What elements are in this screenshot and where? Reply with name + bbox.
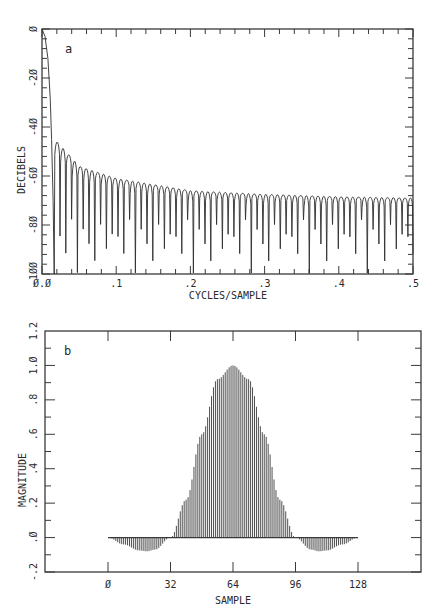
panel-a-y-tick-label: -2Ø — [28, 69, 39, 87]
panel-b-y-tick-label: .8 — [28, 394, 39, 406]
panel-a-y-tick-label: -6Ø — [28, 167, 39, 185]
panel-b-label: b — [64, 344, 71, 358]
panel-b-y-tick-label: 1.2 — [28, 322, 39, 340]
panel-a-x-tick-label: .5 — [407, 278, 419, 289]
panel-b-x-tick-label: 32 — [164, 579, 176, 590]
panel-a-x-tick-label: .1 — [110, 278, 122, 289]
panel-b-y-tick-label: 1.Ø — [28, 356, 39, 374]
panel-b-y-axis-title: MAGNITUDE — [17, 453, 28, 507]
panel-a-frame — [42, 29, 413, 274]
panel-a-y-tick-labels: Ø-2Ø-4Ø-6Ø-8Ø-1ØØ — [28, 26, 39, 286]
panel-b-chart: 1.21.Ø.8.6.4.2.Ø-.2 Ø326496128 b SAMPLE … — [17, 322, 421, 606]
panel-b-x-tick-label: 96 — [289, 579, 301, 590]
cropped-caption — [0, 609, 444, 616]
panel-a-y-axis-title: DECIBELS — [16, 146, 27, 194]
figure: Ø-2Ø-4Ø-6Ø-8Ø-1ØØ Ø.Ø.1.2.3.4.5 a CYCLES… — [0, 0, 444, 616]
panel-b-y-tick-label: .6 — [28, 428, 39, 440]
panel-a-x-tick-label: .4 — [333, 278, 345, 289]
panel-a-y-tick-label: Ø — [28, 26, 39, 32]
panel-b-y-tick-labels: 1.21.Ø.8.6.4.2.Ø-.2 — [28, 322, 39, 581]
panel-a-y-tick-label: -8Ø — [28, 216, 39, 234]
panel-b-x-tick-labels: Ø326496128 — [105, 579, 367, 590]
panel-b-y-tick-label: .2 — [28, 497, 39, 509]
panel-a-x-tick-label: .3 — [259, 278, 271, 289]
panel-a-label: a — [65, 42, 72, 56]
panel-a-x-axis-title: CYCLES/SAMPLE — [189, 290, 267, 301]
panel-a-ticks — [42, 29, 413, 274]
panel-b-y-tick-label: .4 — [28, 463, 39, 475]
panel-a-x-tick-label: Ø.Ø — [33, 278, 51, 289]
panel-a-x-tick-label: .2 — [184, 278, 196, 289]
panel-b-y-tick-label: .Ø — [28, 532, 39, 544]
panel-b-x-axis-title: SAMPLE — [215, 595, 251, 606]
panel-b-x-tick-label: 128 — [349, 579, 367, 590]
panel-b-x-tick-label: 64 — [227, 579, 239, 590]
panel-b-x-tick-label: Ø — [105, 579, 111, 590]
panel-b-y-tick-label: -.2 — [28, 563, 39, 581]
panel-b-stems — [108, 365, 358, 551]
panel-a-response-curve — [42, 29, 413, 274]
panel-a-x-tick-labels: Ø.Ø.1.2.3.4.5 — [33, 278, 419, 289]
figure-canvas: Ø-2Ø-4Ø-6Ø-8Ø-1ØØ Ø.Ø.1.2.3.4.5 a CYCLES… — [0, 0, 444, 616]
panel-a-chart: Ø-2Ø-4Ø-6Ø-8Ø-1ØØ Ø.Ø.1.2.3.4.5 a CYCLES… — [16, 26, 419, 301]
panel-a-y-tick-label: -4Ø — [28, 118, 39, 136]
